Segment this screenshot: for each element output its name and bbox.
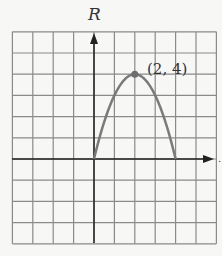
vertex-marker bbox=[131, 71, 138, 78]
x-axis-arrow-icon bbox=[203, 155, 214, 163]
vertex-label: (2, 4) bbox=[147, 60, 187, 78]
y-axis-label: R bbox=[87, 4, 101, 24]
chart: R (2, 4) . bbox=[0, 0, 222, 256]
y-axis-arrow-icon bbox=[90, 33, 98, 44]
x-axis-label-fragment: . bbox=[218, 153, 221, 164]
